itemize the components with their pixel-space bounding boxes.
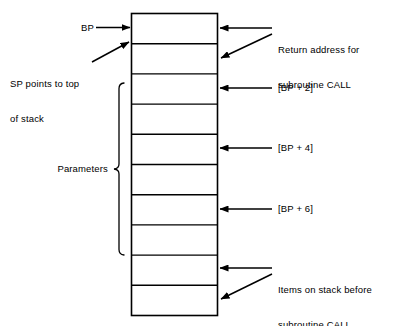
sp-label-line1: SP points to top: [10, 78, 110, 90]
bp-plus-2-label: [BP + 2]: [278, 82, 348, 94]
return-address-label-line1: Return address for: [278, 44, 396, 56]
return-address-label: Return address for subroutine CALL: [278, 21, 396, 113]
bp-label: BP: [46, 22, 94, 34]
return-address-arrow-2: [221, 34, 272, 58]
parameters-brace: [114, 83, 124, 255]
items-before-call-label-line1: Items on stack before: [278, 284, 398, 296]
sp-label: SP points to top of stack: [10, 55, 110, 147]
items-before-call-label-line2: subroutine CALL: [278, 319, 398, 326]
bp-plus-6-label: [BP + 6]: [278, 203, 348, 215]
items-before-call-arrow-2: [221, 274, 272, 299]
stack-frame-diagram: BP SP points to top of stack Parameters …: [0, 0, 398, 326]
parameters-label: Parameters: [38, 163, 108, 175]
bp-plus-4-label: [BP + 4]: [278, 142, 348, 154]
sp-label-line2: of stack: [10, 113, 110, 125]
items-before-call-label: Items on stack before subroutine CALL: [278, 261, 398, 326]
stack-box: [132, 14, 218, 316]
